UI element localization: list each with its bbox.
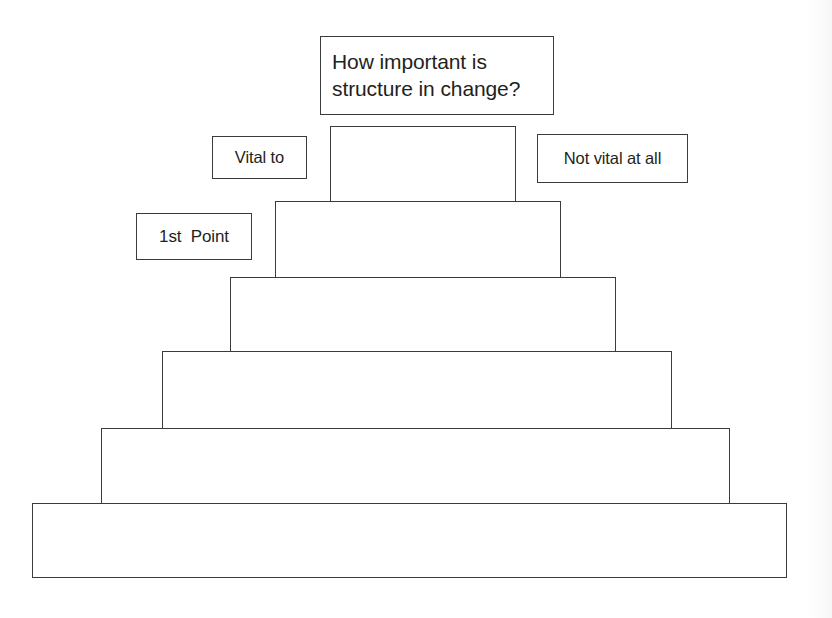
pyramid-tier-4[interactable] bbox=[162, 351, 672, 429]
pyramid-tier-5[interactable] bbox=[101, 428, 730, 504]
label-box-vital-to[interactable]: Vital to bbox=[212, 136, 307, 179]
pyramid-tier-6[interactable] bbox=[32, 503, 787, 578]
diagram-canvas: How important is structure in change? Vi… bbox=[0, 0, 832, 618]
pyramid-tier-3[interactable] bbox=[230, 277, 616, 352]
question-title-text: How important is structure in change? bbox=[332, 49, 520, 103]
label-box-first-point[interactable]: 1st Point bbox=[136, 213, 252, 260]
label-box-not-vital-at-all[interactable]: Not vital at all bbox=[537, 134, 688, 183]
question-title-box: How important is structure in change? bbox=[320, 36, 554, 115]
pyramid-tier-1[interactable] bbox=[330, 126, 516, 202]
page-edge-shading bbox=[806, 0, 832, 618]
pyramid-tier-2[interactable] bbox=[275, 201, 561, 278]
